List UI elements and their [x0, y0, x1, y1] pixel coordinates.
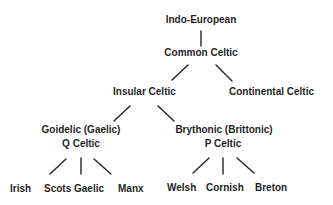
node-cornish: Cornish: [206, 182, 244, 194]
node-brythonic: Brythonic (Brittonic): [175, 124, 272, 136]
edge-brythonic-welsh: [193, 158, 209, 173]
node-insular-celtic: Insular Celtic: [113, 86, 176, 98]
node-breton: Breton: [255, 182, 287, 194]
node-welsh: Welsh: [167, 182, 196, 194]
tree-connectors: [0, 0, 333, 205]
node-continental-celtic: Continental Celtic: [229, 86, 314, 98]
node-irish: Irish: [10, 183, 31, 195]
node-indo-european: Indo-European: [166, 14, 237, 26]
node-manx: Manx: [118, 183, 144, 195]
edge-goidelic-irish: [50, 159, 66, 174]
edge-brythonic-breton: [237, 158, 254, 173]
node-brythonic-p-celtic: P Celtic: [205, 138, 242, 150]
edge-goidelic-manx: [94, 159, 111, 174]
edge-insular-goidelic: [114, 106, 130, 121]
node-goidelic: Goidelic (Gaelic): [42, 124, 121, 136]
node-goidelic-q-celtic: Q Celtic: [62, 138, 100, 150]
node-scots-gaelic: Scots Gaelic: [44, 183, 104, 195]
edge-insular-brythonic: [158, 106, 174, 121]
edge-common-insular: [172, 65, 188, 80]
node-common-celtic: Common Celtic: [164, 47, 237, 59]
edge-common-continental: [216, 65, 232, 81]
